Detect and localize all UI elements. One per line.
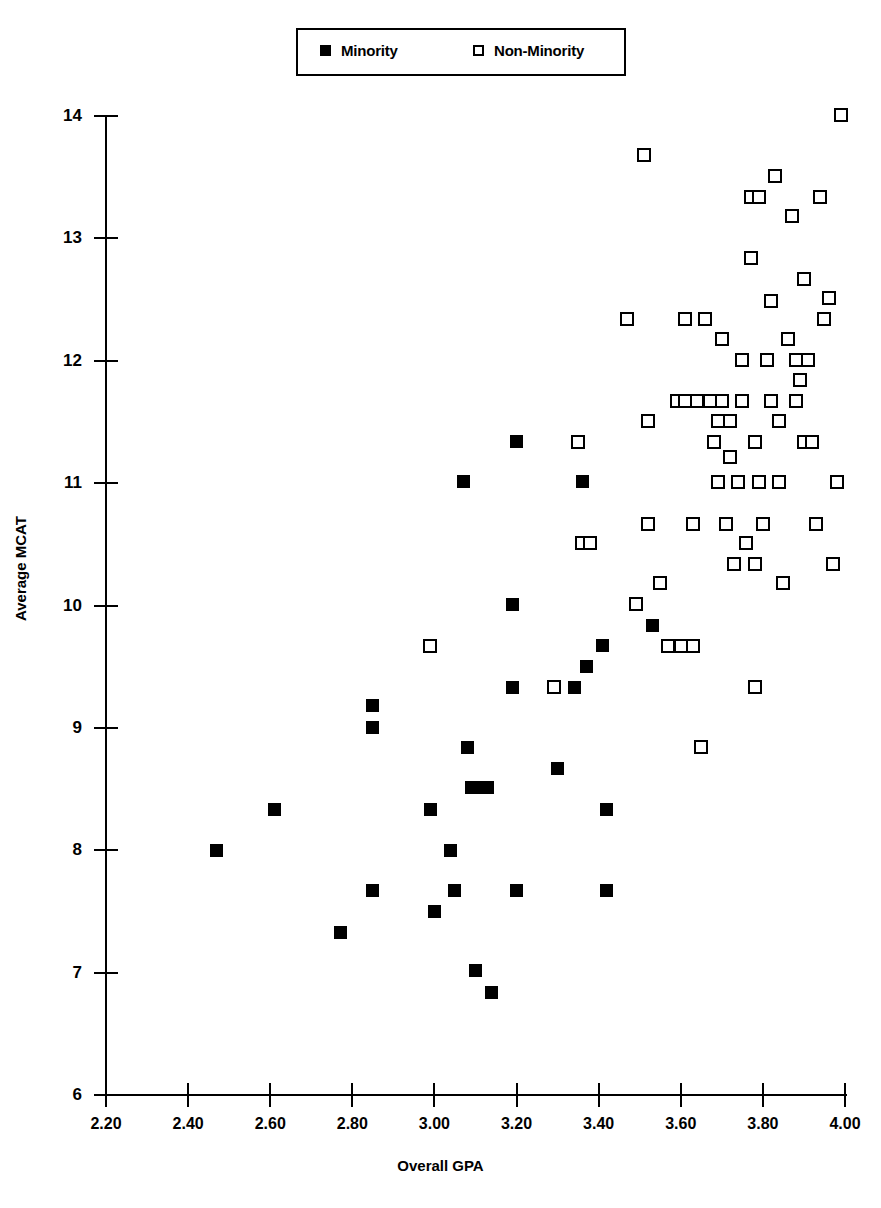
data-point-minority [506, 681, 519, 694]
data-point-non-minority [719, 517, 733, 531]
data-point-minority [268, 803, 281, 816]
x-axis-tick-label: 3.40 [564, 1115, 634, 1133]
data-point-minority [510, 435, 523, 448]
data-point-non-minority [641, 414, 655, 428]
data-point-minority [366, 884, 379, 897]
data-point-minority [448, 884, 461, 897]
x-axis-tick-label: 3.20 [482, 1115, 552, 1133]
data-point-non-minority [620, 312, 634, 326]
legend-item-non-minority: Non-Minority [473, 42, 584, 59]
data-point-non-minority [423, 639, 437, 653]
y-axis-tick [94, 115, 118, 117]
data-point-minority [457, 475, 470, 488]
data-point-non-minority [756, 517, 770, 531]
data-point-non-minority [748, 557, 762, 571]
y-axis-tick-label: 13 [40, 228, 82, 248]
data-point-non-minority [678, 312, 692, 326]
data-point-non-minority [748, 435, 762, 449]
data-point-non-minority [707, 435, 721, 449]
data-point-non-minority [830, 475, 844, 489]
y-axis-tick-label: 14 [40, 106, 82, 126]
data-point-minority [485, 986, 498, 999]
data-point-minority [465, 781, 478, 794]
data-point-non-minority [723, 450, 737, 464]
data-point-non-minority [641, 517, 655, 531]
y-axis-tick [94, 482, 118, 484]
data-point-minority [334, 926, 347, 939]
data-point-minority [210, 844, 223, 857]
data-point-minority [600, 803, 613, 816]
x-axis-tick [269, 1083, 271, 1107]
x-axis-tick-label: 3.60 [646, 1115, 716, 1133]
data-point-non-minority [698, 312, 712, 326]
data-point-non-minority [711, 475, 725, 489]
data-point-non-minority [748, 680, 762, 694]
data-point-minority [576, 475, 589, 488]
data-point-non-minority [731, 475, 745, 489]
data-point-non-minority [797, 272, 811, 286]
y-axis-title: Average MCAT [12, 509, 29, 629]
data-point-non-minority [629, 597, 643, 611]
x-axis-tick-label: 2.60 [235, 1115, 305, 1133]
y-axis-tick-label: 9 [40, 718, 82, 738]
y-axis-tick [94, 237, 118, 239]
data-point-non-minority [813, 190, 827, 204]
x-axis-tick [433, 1083, 435, 1107]
data-point-non-minority [583, 536, 597, 550]
data-point-minority [461, 741, 474, 754]
data-point-non-minority [822, 291, 836, 305]
data-point-non-minority [789, 394, 803, 408]
data-point-non-minority [793, 373, 807, 387]
data-point-minority [424, 803, 437, 816]
y-axis-tick-label: 8 [40, 840, 82, 860]
data-point-minority [580, 660, 593, 673]
x-axis-line [105, 1094, 847, 1096]
x-axis-tick [105, 1083, 107, 1107]
x-axis-tick-label: 3.00 [399, 1115, 469, 1133]
data-point-minority [510, 884, 523, 897]
open-square-icon [473, 45, 484, 56]
data-point-non-minority [772, 475, 786, 489]
data-point-non-minority [768, 169, 782, 183]
y-axis-tick [94, 849, 118, 851]
data-point-minority [444, 844, 457, 857]
x-axis-tick-label: 2.80 [317, 1115, 387, 1133]
data-point-non-minority [752, 475, 766, 489]
filled-square-icon [320, 45, 331, 56]
data-point-non-minority [715, 332, 729, 346]
data-point-minority [646, 619, 659, 632]
data-point-minority [469, 964, 482, 977]
data-point-non-minority [727, 557, 741, 571]
y-axis-tick [94, 605, 118, 607]
legend-label-minority: Minority [341, 42, 398, 59]
x-axis-tick-label: 2.20 [71, 1115, 141, 1133]
data-point-non-minority [735, 394, 749, 408]
data-point-non-minority [744, 251, 758, 265]
y-axis-tick-label: 10 [40, 596, 82, 616]
x-axis-tick-label: 3.80 [728, 1115, 798, 1133]
legend-item-minority: Minority [320, 42, 398, 59]
data-point-non-minority [826, 557, 840, 571]
data-point-non-minority [752, 190, 766, 204]
data-point-non-minority [764, 394, 778, 408]
data-point-non-minority [760, 353, 774, 367]
data-point-non-minority [694, 740, 708, 754]
y-axis-tick [94, 972, 118, 974]
x-axis-tick [351, 1083, 353, 1107]
data-point-non-minority [801, 353, 815, 367]
y-axis-tick-label: 6 [40, 1085, 82, 1105]
data-point-minority [481, 781, 494, 794]
data-point-minority [551, 762, 564, 775]
data-point-minority [366, 721, 379, 734]
data-point-non-minority [785, 209, 799, 223]
data-point-non-minority [809, 517, 823, 531]
data-point-minority [506, 598, 519, 611]
data-point-non-minority [772, 414, 786, 428]
y-axis-tick [94, 727, 118, 729]
data-point-non-minority [653, 576, 667, 590]
x-axis-title: Overall GPA [0, 1157, 881, 1174]
x-axis-tick [680, 1083, 682, 1107]
x-axis-tick [187, 1083, 189, 1107]
data-point-non-minority [764, 294, 778, 308]
data-point-minority [596, 639, 609, 652]
